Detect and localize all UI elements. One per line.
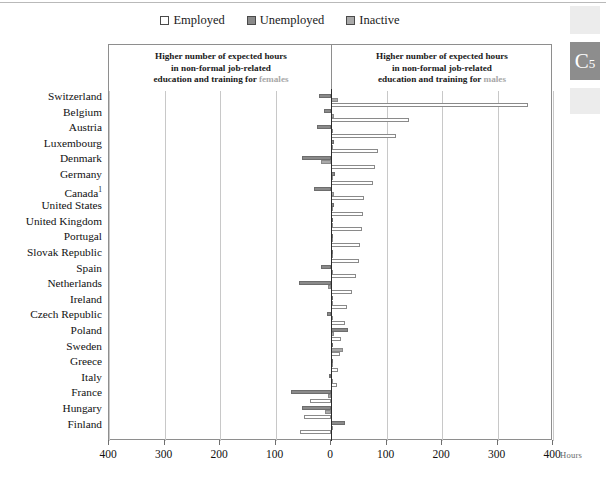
- chapter-marker-number: 5: [589, 56, 596, 72]
- bar-employed[interactable]: [331, 181, 373, 185]
- bar-employed[interactable]: [331, 321, 345, 325]
- category-label-canada: Canada1: [0, 184, 102, 199]
- x-tick-400-8: [552, 440, 553, 445]
- x-tick-label-3: 100: [266, 448, 283, 460]
- category-label-united-states: United States: [0, 199, 102, 211]
- bar-unemployed[interactable]: [331, 328, 348, 332]
- category-label-belgium: Belgium: [0, 106, 102, 118]
- x-tick-100-3: [275, 440, 276, 445]
- category-label-finland: Finland: [0, 418, 102, 430]
- bar-employed[interactable]: [331, 118, 409, 122]
- category-footnote-marker: 1: [98, 185, 102, 194]
- category-label-portugal: Portugal: [0, 230, 102, 242]
- bar-unemployed[interactable]: [331, 421, 345, 425]
- x-tick-200-6: [441, 440, 442, 445]
- x-axis-unit-label: Hours: [560, 450, 582, 460]
- bar-employed[interactable]: [304, 415, 331, 419]
- gridline-zero: [331, 89, 332, 441]
- category-label-poland: Poland: [0, 324, 102, 336]
- legend-swatch-unemployed: [247, 16, 256, 25]
- x-tick-400-0: [108, 440, 109, 445]
- annotation-females-line3-prefix: education and training for: [153, 74, 259, 84]
- bar-unemployed[interactable]: [302, 156, 331, 160]
- annotation-females-accent: females: [259, 74, 289, 84]
- margin-block-bottom: [570, 88, 600, 114]
- category-label-italy: Italy: [0, 371, 102, 383]
- category-label-greece: Greece: [0, 355, 102, 367]
- x-tick-label-6: 200: [432, 448, 449, 460]
- legend-item-unemployed[interactable]: Unemployed: [247, 13, 325, 28]
- margin-block-top: [570, 6, 600, 34]
- annotation-band: Higher number of expected hours in non-f…: [109, 45, 551, 91]
- category-label-germany: Germany: [0, 168, 102, 180]
- x-axis-tick-labels: 4003002001000100200300400: [0, 448, 606, 464]
- category-label-slovak-republic: Slovak Republic: [0, 246, 102, 258]
- category-label-austria: Austria: [0, 121, 102, 133]
- annotation-females-line2: in non-formal job-related: [171, 63, 271, 73]
- bar-unemployed[interactable]: [324, 109, 331, 113]
- bar-employed[interactable]: [331, 149, 378, 153]
- bar-unemployed[interactable]: [319, 94, 331, 98]
- x-tick-label-4: 0: [327, 448, 333, 460]
- bar-employed[interactable]: [331, 352, 340, 356]
- bar-employed[interactable]: [331, 165, 375, 169]
- bar-unemployed[interactable]: [299, 281, 331, 285]
- category-label-spain: Spain: [0, 262, 102, 274]
- x-tick-label-7: 300: [488, 448, 505, 460]
- legend-label-inactive: Inactive: [359, 13, 399, 28]
- bar-unemployed[interactable]: [314, 187, 331, 191]
- annotation-females: Higher number of expected hours in non-f…: [111, 51, 331, 86]
- bar-employed[interactable]: [331, 305, 347, 309]
- annotation-males: Higher number of expected hours in non-f…: [333, 51, 551, 86]
- bar-employed[interactable]: [331, 243, 360, 247]
- bar-inactive[interactable]: [331, 348, 343, 352]
- annotation-males-accent: males: [484, 74, 506, 84]
- bar-unemployed[interactable]: [317, 125, 331, 129]
- bar-employed[interactable]: [331, 196, 364, 200]
- legend-label-employed: Employed: [173, 13, 224, 28]
- x-tick-label-8: 400: [543, 448, 560, 460]
- chart-plot-area: Higher number of expected hours in non-f…: [108, 44, 552, 440]
- legend-item-employed[interactable]: Employed: [160, 13, 224, 28]
- bar-unemployed[interactable]: [302, 406, 331, 410]
- bar-unemployed[interactable]: [321, 265, 331, 269]
- x-tick-label-2: 200: [210, 448, 227, 460]
- gridline-400: [553, 91, 554, 441]
- chapter-marker-c5: C5: [570, 42, 600, 80]
- bar-inactive[interactable]: [321, 160, 331, 164]
- x-tick-100-5: [386, 440, 387, 445]
- bar-employed[interactable]: [331, 227, 362, 231]
- annotation-females-line1: Higher number of expected hours: [155, 51, 287, 61]
- x-tick-label-1: 300: [155, 448, 172, 460]
- category-label-denmark: Denmark: [0, 152, 102, 164]
- category-label-luxembourg: Luxembourg: [0, 137, 102, 149]
- bar-employed[interactable]: [331, 134, 396, 138]
- annotation-divider: [331, 45, 332, 91]
- x-tick-200-2: [219, 440, 220, 445]
- legend-item-inactive[interactable]: Inactive: [346, 13, 399, 28]
- top-page-rule: [0, 2, 606, 3]
- bar-employed[interactable]: [310, 399, 331, 403]
- bar-employed[interactable]: [331, 337, 341, 341]
- bar-unemployed[interactable]: [291, 390, 331, 394]
- bar-employed[interactable]: [331, 103, 528, 107]
- x-axis-ticks: [108, 440, 552, 446]
- bar-employed[interactable]: [331, 290, 352, 294]
- bar-employed[interactable]: [300, 430, 331, 434]
- category-label-netherlands: Netherlands: [0, 277, 102, 289]
- annotation-males-line3-prefix: education and training for: [378, 74, 484, 84]
- category-label-czech-republic: Czech Republic: [0, 308, 102, 320]
- page-marker-column: C5: [570, 6, 600, 114]
- annotation-males-line1: Higher number of expected hours: [376, 51, 508, 61]
- chapter-marker-letter: C: [575, 49, 589, 74]
- annotation-males-line2: in non-formal job-related: [392, 63, 492, 73]
- x-tick-300-1: [164, 440, 165, 445]
- legend-label-unemployed: Unemployed: [260, 13, 325, 28]
- bar-employed[interactable]: [331, 259, 359, 263]
- x-tick-300-7: [497, 440, 498, 445]
- category-label-united-kingdom: United Kingdom: [0, 215, 102, 227]
- category-label-ireland: Ireland: [0, 293, 102, 305]
- bar-employed[interactable]: [331, 274, 356, 278]
- x-tick-label-0: 400: [99, 448, 116, 460]
- bar-employed[interactable]: [331, 212, 363, 216]
